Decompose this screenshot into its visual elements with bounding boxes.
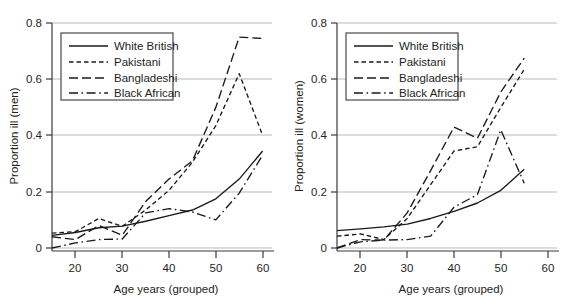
x-tick-label-40: 40 [448, 262, 461, 274]
y-tick-label-0.8: 0.8 [26, 17, 42, 29]
legend-women[interactable]: White British Pakistani Bangladeshi Blac… [346, 33, 465, 100]
panel-women: 0.8 0.6 0.4 0.2 0 Proportion ill (women)… [285, 0, 571, 304]
y-tick-label-0.4: 0.4 [26, 129, 43, 141]
x-tick-label-50: 50 [210, 262, 223, 274]
chart-men-svg: 0.8 0.6 0.4 0.2 0 Proportion ill (men) 2… [0, 0, 285, 304]
legend-label-pakistani: Pakistani [399, 56, 446, 68]
x-tick-label-30: 30 [401, 262, 414, 274]
legend-label-pakistani: Pakistani [114, 56, 161, 68]
y-axis-women: 0.8 0.6 0.4 0.2 0 Proportion ill (women) [293, 17, 337, 254]
x-tick-label-30: 30 [116, 262, 129, 274]
y-tick-label-0: 0 [321, 242, 327, 254]
x-axis-title-women: Age years (grouped) [399, 283, 504, 295]
y-axis-title-men: Proportion ill (men) [8, 87, 20, 184]
legend-label-bangladeshi: Bangladeshi [399, 72, 462, 84]
figure-two-panel-line-charts: 0.8 0.6 0.4 0.2 0 Proportion ill (men) 2… [0, 0, 571, 304]
y-tick-label-0.8: 0.8 [311, 17, 327, 29]
x-tick-label-60: 60 [257, 262, 270, 274]
y-tick-label-0.4: 0.4 [311, 129, 328, 141]
x-axis-title-men: Age years (grouped) [114, 283, 219, 295]
x-tick-label-40: 40 [163, 262, 176, 274]
y-tick-label-0.6: 0.6 [311, 73, 327, 85]
legend-men[interactable]: White British Pakistani Bangladeshi Blac… [61, 33, 180, 100]
legend-label-black-african: Black African [114, 87, 180, 99]
x-axis-men: 20 30 40 50 60 Age years (grouped) [52, 251, 274, 295]
legend-label-white-british: White British [114, 40, 179, 52]
series-line-black-african[interactable] [337, 130, 524, 248]
legend-label-black-african: Black African [399, 87, 465, 99]
panel-men: 0.8 0.6 0.4 0.2 0 Proportion ill (men) 2… [0, 0, 285, 304]
x-tick-label-20: 20 [354, 262, 367, 274]
legend-label-white-british: White British [399, 40, 464, 52]
y-tick-label-0.6: 0.6 [26, 73, 42, 85]
y-axis-men: 0.8 0.6 0.4 0.2 0 Proportion ill (men) [8, 17, 52, 254]
x-tick-label-20: 20 [69, 262, 82, 274]
series-line-white-british[interactable] [337, 169, 524, 230]
x-tick-label-60: 60 [542, 262, 555, 274]
y-tick-label-0: 0 [36, 242, 42, 254]
y-tick-label-0.2: 0.2 [26, 186, 42, 198]
legend-label-bangladeshi: Bangladeshi [114, 72, 177, 84]
y-axis-title-women: Proportion ill (women) [293, 80, 305, 192]
series-line-white-british[interactable] [52, 151, 263, 235]
x-axis-women: 20 30 40 50 60 Age years (grouped) [337, 251, 559, 295]
x-tick-label-50: 50 [495, 262, 508, 274]
y-tick-label-0.2: 0.2 [311, 186, 327, 198]
chart-women-svg: 0.8 0.6 0.4 0.2 0 Proportion ill (women)… [285, 0, 571, 304]
